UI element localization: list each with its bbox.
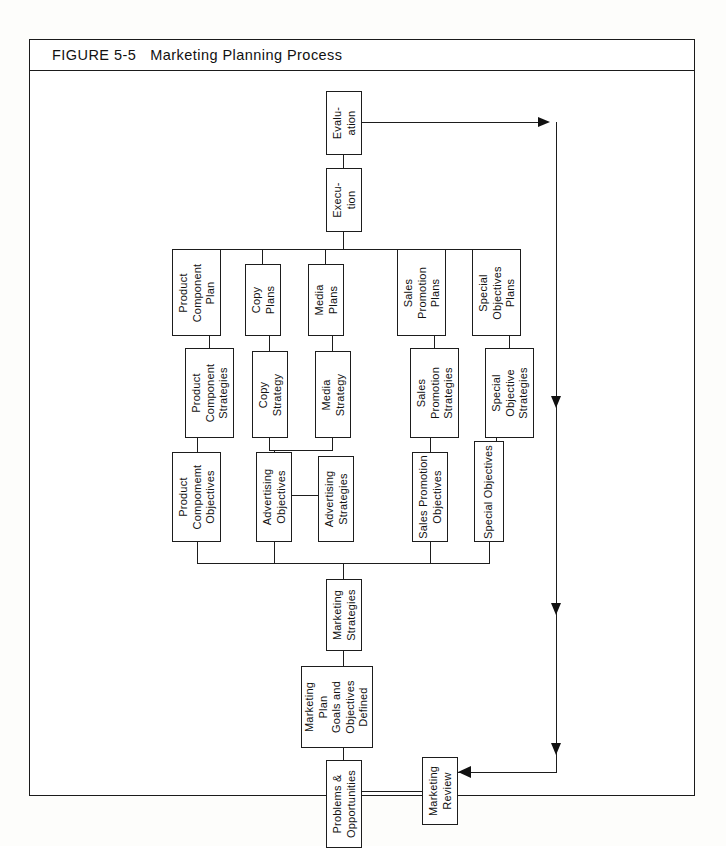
- diagram-canvas: Evalu- ation Execu- tion Product Compone…: [30, 71, 696, 795]
- node-product-component-plan[interactable]: Product Component Plan: [172, 249, 221, 336]
- connector-advertising-objectives-to-strategies: [292, 495, 318, 496]
- connector-marketing-strategies-to-plan: [343, 651, 344, 666]
- plans-distribution-bus: [196, 249, 497, 250]
- node-marketing-review[interactable]: Marketing Review: [422, 757, 458, 825]
- node-copy-strategy-label: Copy Strategy: [257, 373, 284, 416]
- connector-special-plans-to-special-strategies: [509, 336, 510, 348]
- figure-caption: FIGURE 5-5Marketing Planning Process: [52, 47, 343, 63]
- connector-sales-objectives-down: [430, 542, 431, 563]
- connector-product-plan-to-strategies: [209, 336, 210, 348]
- arrow-feedback-mid-lower: [551, 603, 561, 615]
- node-marketing-plan-goals[interactable]: Marketing Plan Goals and Objectives Defi…: [301, 666, 373, 748]
- arrow-feedback-top: [538, 117, 550, 127]
- connector-execution-down: [343, 232, 344, 249]
- connector-plan-to-problems: [343, 748, 344, 760]
- connector-bus-to-media-plans: [325, 249, 326, 264]
- connector-copy-plans-to-copy-strategy: [269, 336, 270, 351]
- node-sales-promotion-objectives-label: Sales Promotion Objectives: [417, 455, 444, 539]
- node-copy-plans[interactable]: Copy Plans: [245, 264, 281, 336]
- node-execution[interactable]: Execu- tion: [326, 168, 362, 232]
- connector-advertising-objectives-down: [274, 542, 275, 563]
- connector-evaluation-to-execution: [343, 155, 344, 168]
- node-advertising-objectives[interactable]: Advertising Objectives: [256, 452, 292, 542]
- arrow-feedback-mid-upper: [551, 396, 561, 408]
- node-advertising-objectives-label: Advertising Objectives: [261, 469, 288, 526]
- node-evaluation-label: Evalu- ation: [331, 107, 358, 139]
- node-special-objectives-label: Special Objectives: [482, 444, 496, 538]
- arrow-into-marketing-review: [458, 766, 471, 778]
- connector-evaluation-to-feedback: [362, 122, 544, 123]
- node-problems-opportunities[interactable]: Problems & Opportunities: [326, 760, 362, 848]
- connector-collector-to-marketing-strategies: [343, 563, 344, 579]
- connector-special-objectives-down: [489, 542, 490, 563]
- node-product-component-objectives-label: Product Compomemt Objectives: [176, 465, 217, 530]
- node-marketing-review-label: Marketing Review: [427, 766, 454, 816]
- node-special-objectives-plans[interactable]: Special Objectives Plans: [472, 249, 521, 336]
- connector-product-strategies-to-objectives: [197, 438, 198, 452]
- node-media-strategy[interactable]: Media Strategy: [315, 351, 351, 438]
- node-media-strategy-label: Media Strategy: [320, 373, 347, 416]
- node-product-component-objectives[interactable]: Product Compomemt Objectives: [172, 452, 221, 542]
- figure-title: Marketing Planning Process: [150, 47, 342, 63]
- node-special-objectives[interactable]: Special Objectives: [474, 441, 504, 542]
- connector-feedback-to-marketing-review: [458, 772, 557, 773]
- node-special-objectives-plans-label: Special Objectives Plans: [476, 266, 517, 319]
- node-marketing-strategies-label: Marketing Strategies: [331, 589, 358, 641]
- node-advertising-strategies-label: Advertising Strategies: [323, 471, 350, 528]
- node-special-objective-strategies-label: Special Objective Strategies: [489, 367, 530, 419]
- node-sales-promotion-strategies[interactable]: Sales Promotion Strategies: [410, 348, 459, 438]
- node-problems-opportunities-label: Problems & Opportunities: [331, 770, 358, 838]
- node-execution-label: Execu- tion: [331, 182, 358, 217]
- node-product-component-strategies-label: Product Component Strategies: [189, 364, 230, 423]
- node-sales-promotion-strategies-label: Sales Promotion Strategies: [414, 367, 455, 419]
- node-sales-promotion-plans[interactable]: Sales Promotion Plans: [397, 249, 446, 336]
- node-media-plans-label: Media Plans: [313, 285, 340, 316]
- connector-sales-strategies-to-objectives: [430, 438, 431, 452]
- connector-product-objectives-down: [197, 542, 198, 563]
- connector-media-strategy-down: [332, 438, 333, 450]
- connector-problems-to-marketing-review: [362, 791, 422, 792]
- node-sales-promotion-plans-label: Sales Promotion Plans: [401, 267, 442, 319]
- node-sales-promotion-objectives[interactable]: Sales Promotion Objectives: [412, 452, 448, 542]
- node-media-plans[interactable]: Media Plans: [308, 264, 344, 336]
- node-advertising-strategies[interactable]: Advertising Strategies: [318, 456, 354, 542]
- node-marketing-strategies[interactable]: Marketing Strategies: [326, 579, 362, 651]
- connector-copy-strategy-down: [269, 438, 270, 450]
- node-copy-plans-label: Copy Plans: [250, 286, 277, 315]
- node-product-component-strategies[interactable]: Product Component Strategies: [185, 348, 234, 438]
- node-special-objective-strategies[interactable]: Special Objective Strategies: [485, 348, 534, 438]
- connector-bus-to-copy-plans: [262, 249, 263, 264]
- figure-frame: FIGURE 5-5Marketing Planning Process Eva…: [29, 39, 695, 796]
- connector-media-plans-to-media-strategy: [332, 336, 333, 351]
- feedback-bus-vertical: [556, 122, 557, 772]
- arrow-feedback-bottom: [551, 743, 561, 755]
- node-copy-strategy[interactable]: Copy Strategy: [252, 351, 288, 438]
- figure-number: FIGURE 5-5: [52, 47, 136, 63]
- node-product-component-plan-label: Product Component Plan: [176, 263, 217, 322]
- node-evaluation[interactable]: Evalu- ation: [326, 91, 362, 155]
- connector-sales-plans-to-sales-strategies: [434, 336, 435, 348]
- node-marketing-plan-goals-label: Marketing Plan Goals and Objectives Defi…: [303, 680, 371, 733]
